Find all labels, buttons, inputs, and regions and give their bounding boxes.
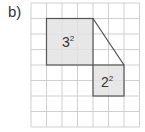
big-square: 32	[47, 19, 94, 66]
small-square: 22	[93, 65, 124, 96]
grid-diagram: 32 22	[0, 0, 145, 132]
